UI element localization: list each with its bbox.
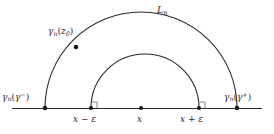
left-endpoint-dot [43, 106, 48, 111]
axis-label-x-plus-epsilon: x + ε [180, 115, 203, 124]
inner-right-foot-dot [197, 106, 201, 110]
outer-arc-label: Ln [157, 5, 168, 17]
outer-arc-label-sub: n [163, 9, 167, 17]
arc-point-label: γn(z0) [48, 27, 73, 37]
axis-label-x: x [137, 115, 142, 124]
right-endpoint-dot [235, 106, 240, 111]
right-endpoint-label-close-paren: ) [248, 92, 252, 102]
right-endpoint-label: γn(γ+) [224, 92, 251, 103]
left-endpoint-label-close-paren: ) [26, 92, 30, 102]
center-dot [139, 106, 143, 110]
arc-point-label-close-paren: ) [70, 26, 74, 36]
inner-left-foot-dot [89, 106, 93, 110]
semicircle-diagram: Ln γn(z0) γn(γ−) γn(γ+) x − ε x x + ε [0, 0, 274, 134]
arc-point-dot [74, 45, 79, 50]
inner-arc-path [91, 54, 199, 108]
left-endpoint-label: γn(γ−) [2, 92, 29, 103]
outer-arc-path [45, 12, 237, 108]
axis-label-x-minus-epsilon: x − ε [73, 115, 96, 124]
